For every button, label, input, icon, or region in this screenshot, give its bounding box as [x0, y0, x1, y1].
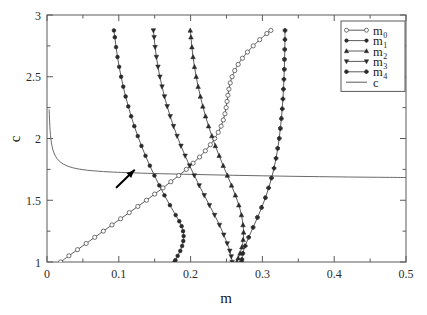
marker-solid-circle — [119, 75, 123, 79]
marker-plus-dot — [281, 98, 285, 100]
x-tick-label: 0.5 — [399, 267, 414, 281]
marker-solid-circle — [113, 35, 117, 39]
marker-solid-circle — [116, 55, 120, 59]
marker-plus-dot — [365, 71, 369, 73]
marker-solid-circle — [365, 39, 369, 43]
marker-open-circle — [67, 254, 71, 258]
marker-solid-circle — [124, 95, 128, 99]
marker-solid-circle — [182, 234, 186, 238]
marker-open-circle — [136, 204, 140, 208]
marker-open-circle — [184, 167, 188, 171]
marker-plus-dot — [263, 197, 267, 199]
marker-open-circle — [224, 106, 228, 110]
marker-open-circle — [93, 235, 97, 239]
marker-solid-circle — [114, 45, 118, 49]
marker-open-circle — [75, 248, 79, 252]
marker-plus-dot — [278, 128, 282, 130]
plot-figure: 00.10.20.30.40.5 11.522.53 m0m1m2m3m4c m… — [0, 0, 427, 315]
marker-solid-circle — [148, 164, 152, 168]
marker-solid-circle — [174, 213, 178, 217]
marker-plus-dot — [276, 147, 280, 149]
marker-plus-dot — [251, 227, 255, 229]
marker-solid-circle — [181, 229, 185, 233]
marker-open-circle — [365, 28, 369, 32]
x-tick-label: 0.4 — [327, 267, 342, 281]
x-tick-label: 0.2 — [183, 267, 198, 281]
marker-open-circle — [197, 155, 201, 159]
marker-solid-circle — [163, 193, 167, 197]
y-tick-label: 1 — [35, 256, 41, 270]
marker-plus-dot — [247, 236, 251, 238]
marker-open-circle — [101, 229, 105, 233]
marker-open-circle — [230, 75, 234, 79]
marker-plus-dot — [267, 187, 271, 189]
x-tick-label: 0.3 — [255, 267, 270, 281]
marker-open-circle — [258, 38, 262, 42]
marker-solid-circle — [121, 85, 125, 89]
y-axis-title: c — [7, 135, 23, 142]
marker-open-circle — [110, 223, 114, 227]
marker-plus-dot — [282, 78, 286, 80]
y-tick-label: 1.5 — [26, 194, 41, 208]
marker-solid-circle — [168, 203, 172, 207]
marker-open-circle — [127, 211, 131, 215]
marker-solid-circle — [136, 134, 140, 138]
marker-open-circle — [216, 130, 220, 134]
marker-open-circle — [225, 99, 229, 103]
marker-plus-dot — [283, 39, 287, 41]
marker-open-circle — [345, 28, 349, 32]
marker-open-circle — [265, 31, 269, 35]
y-tick-label: 2.5 — [26, 70, 41, 84]
marker-solid-circle — [180, 224, 184, 228]
marker-open-circle — [208, 143, 212, 147]
marker-open-circle — [161, 186, 165, 190]
marker-solid-circle — [132, 124, 136, 128]
marker-open-circle — [240, 56, 244, 60]
marker-open-circle — [177, 173, 181, 177]
marker-plus-dot — [272, 167, 276, 169]
marker-plus-dot — [283, 30, 287, 32]
marker-plus-dot — [274, 157, 278, 159]
marker-solid-circle — [144, 154, 148, 158]
marker-plus-dot — [256, 217, 260, 219]
legend: m0m1m2m3m4c — [341, 21, 405, 91]
marker-solid-circle — [153, 174, 157, 178]
marker-open-circle — [228, 81, 232, 85]
marker-solid-circle — [345, 39, 349, 43]
marker-open-circle — [118, 217, 122, 221]
plot-canvas: 00.10.20.30.40.5 11.522.53 m0m1m2m3m4c m… — [0, 0, 427, 315]
marker-open-circle — [226, 93, 230, 97]
marker-solid-circle — [178, 249, 182, 253]
marker-open-circle — [169, 180, 173, 184]
marker-open-circle — [233, 68, 237, 72]
y-tick-label: 2 — [35, 132, 41, 146]
marker-open-circle — [153, 192, 157, 196]
marker-solid-circle — [129, 114, 133, 118]
marker-solid-circle — [140, 144, 144, 148]
legend-label-c: c — [373, 76, 379, 90]
marker-plus-dot — [279, 118, 283, 120]
marker-plus-dot — [260, 207, 264, 209]
marker-solid-circle — [117, 65, 121, 69]
marker-plus-dot — [280, 108, 284, 110]
marker-open-circle — [221, 118, 225, 122]
marker-open-circle — [227, 87, 231, 91]
x-tick-label: 0 — [44, 267, 50, 281]
marker-solid-circle — [180, 244, 184, 248]
x-axis-title: m — [220, 290, 232, 306]
marker-open-circle — [144, 198, 148, 202]
marker-plus-dot — [270, 177, 274, 179]
marker-plus-dot — [282, 88, 286, 90]
marker-open-circle — [203, 149, 207, 153]
marker-solid-circle — [112, 29, 116, 33]
marker-open-circle — [269, 28, 273, 32]
marker-plus-dot — [241, 252, 245, 254]
marker-open-circle — [223, 112, 227, 116]
marker-plus-dot — [283, 49, 287, 51]
marker-solid-circle — [177, 219, 181, 223]
x-tick-label: 0.1 — [111, 267, 126, 281]
marker-plus-dot — [345, 71, 349, 73]
marker-open-circle — [84, 241, 88, 245]
marker-open-circle — [219, 124, 223, 128]
marker-plus-dot — [282, 68, 286, 70]
